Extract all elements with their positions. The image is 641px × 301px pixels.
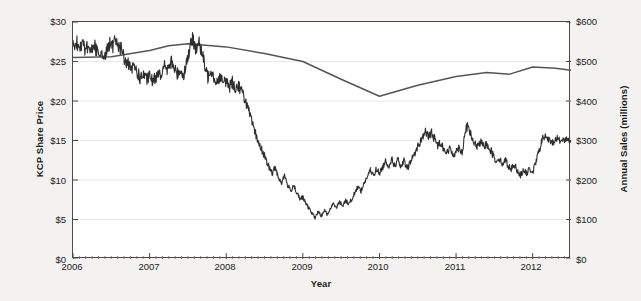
y-tick-label-5: $25: [36, 56, 66, 67]
y2-tick-label-5: $500: [576, 56, 610, 67]
x-tick-label-2007: 2007: [129, 261, 169, 272]
y-tick-label-1: $5: [36, 214, 66, 225]
x-tick-label-2006: 2006: [52, 261, 92, 272]
y2-tick-label-6: $600: [576, 16, 610, 27]
y-axis-right-title: Annual Sales (millions): [618, 20, 632, 258]
y2-tick-label-1: $100: [576, 214, 610, 225]
plot-area: [72, 21, 570, 258]
y2-tick-label-4: $400: [576, 96, 610, 107]
annual-sales-line: [73, 44, 571, 97]
gridlines: [73, 62, 571, 220]
x-tick-label-2010: 2010: [358, 261, 398, 272]
y-tick-label-4: $20: [36, 96, 66, 107]
axis-minor-tick-marks: [79, 256, 564, 259]
x-tick-label-2012: 2012: [511, 261, 551, 272]
x-tick-label-2008: 2008: [205, 261, 245, 272]
share-price-line: [73, 33, 571, 219]
y2-tick-label-2: $200: [576, 175, 610, 186]
x-axis-title: Year: [72, 278, 570, 289]
y-tick-label-2: $10: [36, 175, 66, 186]
y2-tick-label-0: $0: [576, 254, 610, 265]
chart-figure: KCP Share Price Annual Sales (millions) …: [0, 0, 641, 301]
plot-canvas: [73, 22, 571, 259]
x-tick-label-2009: 2009: [282, 261, 322, 272]
y-tick-label-3: $15: [36, 135, 66, 146]
y-tick-label-6: $30: [36, 16, 66, 27]
y2-tick-label-3: $300: [576, 135, 610, 146]
x-tick-label-2011: 2011: [435, 261, 475, 272]
